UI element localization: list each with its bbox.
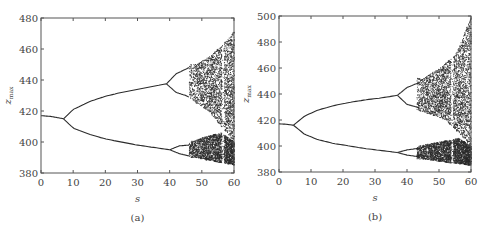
x-tick-label: 60: [228, 177, 241, 188]
x-axis-label-b: s: [372, 192, 377, 203]
y-axis-label-subscript: max: [7, 86, 14, 99]
y-tick-label: 400: [19, 137, 38, 148]
x-tick-label: 20: [99, 177, 112, 188]
bifurcation-branch: [397, 95, 419, 108]
y-axis-label-subscript: max: [245, 84, 252, 97]
x-tick-label: 10: [67, 177, 80, 188]
panel-caption-b: (b): [368, 211, 382, 222]
bifurcation-plot-a: [41, 32, 235, 165]
x-tick-label: 30: [369, 176, 382, 187]
y-tick-label: 420: [19, 106, 38, 117]
x-tick-label: 0: [38, 177, 44, 188]
x-tick-label: 0: [276, 176, 282, 187]
bifurcation-branch: [170, 150, 189, 156]
x-tick-label: 10: [305, 176, 318, 187]
bifurcation-branch: [41, 116, 64, 119]
bifurcation-branch: [293, 95, 397, 125]
x-tick-label: 50: [195, 177, 208, 188]
bifurcation-branch: [166, 84, 189, 97]
y-tick-label: 400: [257, 141, 276, 152]
panel-a: 0102030405060 380400420440460480 s zmax …: [2, 13, 240, 224]
bifurcation-branch: [293, 125, 397, 152]
bifurcation-branch: [170, 145, 189, 150]
bifurcation-branch: [64, 84, 167, 119]
x-tick-label: 30: [131, 177, 144, 188]
y-tick-label: 480: [257, 37, 276, 48]
x-tick-label: 40: [163, 177, 176, 188]
y-tick-label: 380: [19, 168, 38, 179]
x-tick-label: 40: [401, 176, 414, 187]
y-tick-label: 380: [257, 167, 276, 178]
chaotic-region: [189, 32, 235, 165]
y-tick-label: 460: [19, 44, 38, 55]
y-tick-label: 440: [19, 75, 38, 86]
bifurcation-branch: [397, 153, 419, 158]
x-tick-label: 50: [433, 176, 446, 187]
x-axis-ticks-a: 0102030405060: [38, 18, 241, 188]
y-tick-label: 460: [257, 63, 276, 74]
panel-caption-a: (a): [131, 212, 145, 223]
y-tick-label: 500: [257, 11, 276, 22]
bifurcation-branch: [397, 148, 419, 153]
y-tick-label: 480: [19, 13, 38, 24]
bifurcation-branch: [166, 68, 189, 84]
y-axis-label-b: zmax: [240, 84, 252, 104]
bifurcation-branch: [397, 82, 419, 95]
x-tick-label: 20: [337, 176, 350, 187]
y-tick-label: 440: [257, 89, 276, 100]
x-axis-label-a: s: [135, 193, 140, 204]
chaotic-region: [417, 18, 472, 165]
bifurcation-plot-b: [279, 18, 472, 165]
bifurcation-branch: [279, 124, 293, 125]
y-tick-label: 420: [257, 115, 276, 126]
x-tick-label: 60: [465, 176, 478, 187]
figure: 0102030405060 380400420440460480 s zmax …: [0, 0, 484, 231]
y-axis-label-a: zmax: [2, 86, 14, 106]
bifurcation-branch: [64, 119, 170, 150]
panel-b: 0102030405060 380400420440460480500 s zm…: [240, 11, 477, 223]
